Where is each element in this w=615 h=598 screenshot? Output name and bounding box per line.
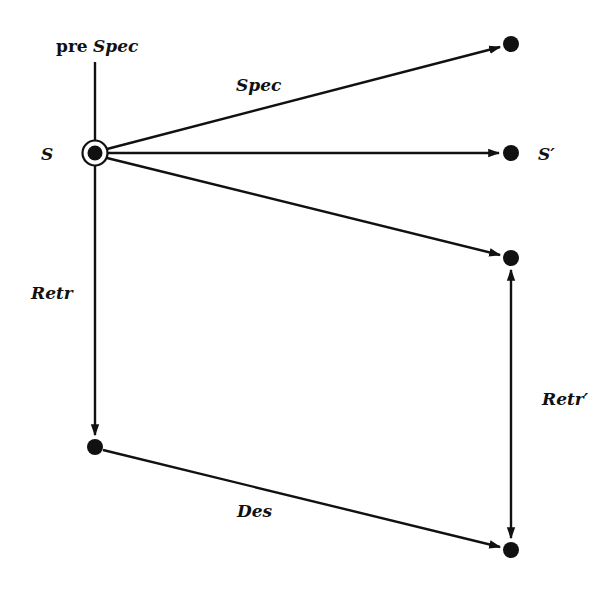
edge-des xyxy=(103,450,500,547)
label-retr-prime: Retr′ xyxy=(541,389,589,409)
node-bottom-left xyxy=(87,439,103,455)
node-s xyxy=(88,146,103,161)
edge-s-to-mid-right xyxy=(107,158,500,255)
node-mid-right xyxy=(503,250,519,266)
node-s-prime xyxy=(503,145,519,161)
node-bottom-right xyxy=(503,542,519,558)
label-retr: Retr xyxy=(30,283,74,303)
label-s-prime: S′ xyxy=(538,144,555,164)
label-pre-prefix: pre xyxy=(56,36,88,56)
label-pre-spec-word: Spec xyxy=(93,36,139,56)
label-des: Des xyxy=(236,501,273,521)
commutative-diagram: pre Spec Spec S S′ Retr Retr′ Des xyxy=(0,0,615,598)
node-top-right xyxy=(503,36,519,52)
edge-spec-top xyxy=(107,47,500,149)
label-spec: Spec xyxy=(236,75,282,95)
label-pre-spec: pre Spec xyxy=(56,36,139,56)
label-s: S xyxy=(41,144,53,164)
